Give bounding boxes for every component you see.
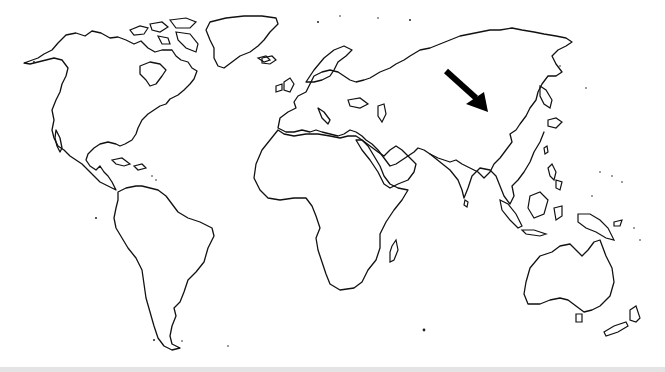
arrow-down-right-icon [446,71,488,112]
north-america-outline [24,18,198,190]
world-map-svg [0,0,665,372]
europe-outline [258,28,572,178]
bottom-strip [0,367,665,372]
australia-outline [524,240,640,336]
world-map: World map outline with arrow [0,0,665,372]
south-asia-outline [430,86,622,240]
caribbean-islands [112,158,157,181]
africa-outline [254,130,416,290]
south-america-outline [114,186,214,350]
greenland-outline [206,16,278,68]
